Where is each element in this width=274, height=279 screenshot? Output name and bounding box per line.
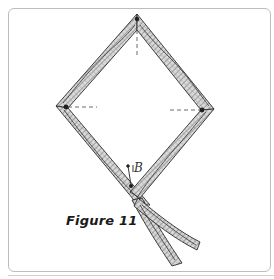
point-label-b: B (134, 161, 143, 175)
band-top-left (56, 14, 137, 108)
kite-diagram (0, 0, 274, 279)
band-top-right (137, 14, 214, 110)
kite-frame (56, 14, 214, 205)
band-bottom-right (130, 109, 214, 198)
figure-caption: Figure 11 (66, 213, 138, 228)
